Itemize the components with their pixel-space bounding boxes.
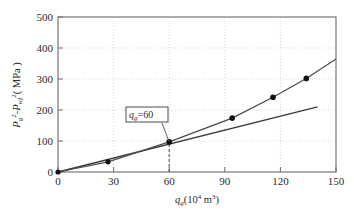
data-point-4 <box>270 95 276 101</box>
ytick-label-300: 300 <box>37 73 54 85</box>
ytick-label-400: 400 <box>37 42 54 54</box>
x-title-unit-close: ) <box>216 194 220 206</box>
data-point-5 <box>304 76 310 82</box>
ytick-label-100: 100 <box>37 135 54 147</box>
x-axis-title: qg(104 m3) <box>175 193 220 207</box>
xtick-label-60: 60 <box>164 175 176 187</box>
annotation-eq: =60 <box>138 109 154 120</box>
y-title-unit: ( MPa ) <box>11 62 23 95</box>
ytick-label-200: 200 <box>37 104 54 116</box>
svg-text:Pg2-Pwf2( MPa ): Pg2-Pwf2( MPa ) <box>10 62 24 129</box>
data-point-3 <box>229 115 235 121</box>
xtick-label-150: 150 <box>328 175 345 187</box>
xtick-label-0: 0 <box>55 175 61 187</box>
x-title-unit-open: (10 <box>184 194 198 206</box>
xtick-label-30: 30 <box>108 175 120 187</box>
y-axis-title: Pg2-Pwf2( MPa ) <box>10 62 24 129</box>
xtick-label-120: 120 <box>272 175 289 187</box>
data-point-0 <box>55 169 60 174</box>
xtick-label-90: 90 <box>219 175 231 187</box>
ytick-label-500: 500 <box>37 11 54 23</box>
chart-svg: 0 30 60 90 120 150 0 100 200 300 400 500… <box>0 0 354 218</box>
data-point-1 <box>105 159 110 164</box>
ytick-label-0: 0 <box>48 166 54 178</box>
chart-figure: 0 30 60 90 120 150 0 100 200 300 400 500… <box>0 0 354 218</box>
x-title-unit-m: m <box>201 194 212 205</box>
plot-background <box>58 17 336 172</box>
